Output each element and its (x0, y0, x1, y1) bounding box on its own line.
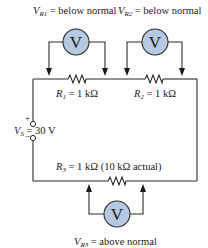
r3-label: R3 = 1 kΩ (10 kΩ actual) (55, 161, 162, 174)
voltmeter-1-symbol: V (70, 33, 83, 52)
voltmeter-1: V (46, 29, 108, 76)
vr1-reading-label: VR1 = below normal (33, 5, 116, 18)
plus-sign: + (25, 113, 30, 123)
resistor-r1 (66, 75, 88, 83)
voltage-source: + − VS = 30 V (14, 113, 56, 141)
circuit-diagram: VR1 = below normal VR2 = below normal R1… (0, 0, 208, 248)
r2-label: R2 = 1 kΩ (133, 88, 176, 101)
voltmeter-2: V (124, 29, 185, 76)
vr3-reading-label: VR3 = above normal (74, 236, 157, 248)
voltmeter-3: V (86, 184, 146, 227)
resistor-r3 (106, 177, 128, 185)
r1-label: R1 = 1 kΩ (55, 88, 98, 101)
voltmeter-3-symbol: V (111, 205, 124, 224)
resistor-r2 (143, 75, 165, 83)
voltmeter-2-symbol: V (149, 33, 162, 52)
vr2-reading-label: VR2 = below normal (118, 5, 201, 18)
